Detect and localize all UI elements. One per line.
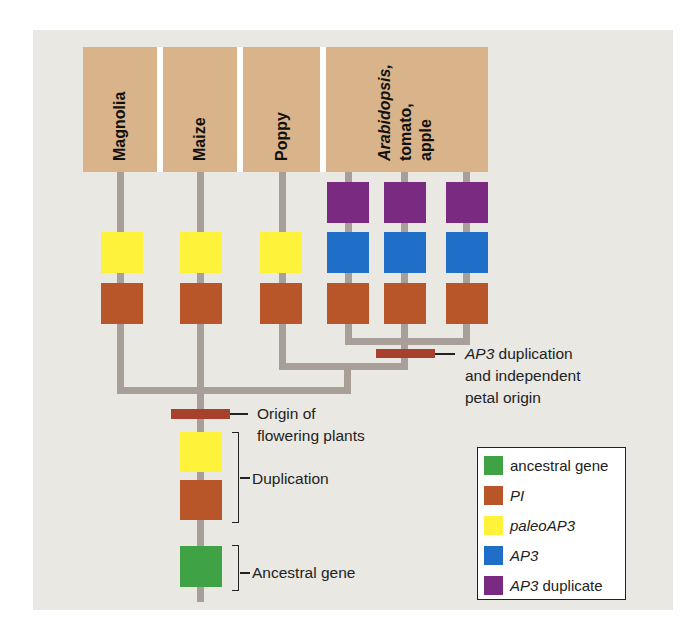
gene-box-pi bbox=[446, 283, 488, 324]
bracket-ancestral bbox=[232, 545, 239, 591]
annotation-text: petal origin bbox=[465, 387, 541, 409]
gene-box-ap3-duplicate bbox=[446, 182, 488, 223]
gene-box-pi bbox=[260, 283, 302, 324]
legend-label-italic: AP3 bbox=[510, 577, 538, 594]
annotation-text: and independent bbox=[465, 365, 581, 387]
legend: ancestral gene PI paleoAP3 AP3 AP3 dupli… bbox=[477, 447, 626, 600]
gene-box-paleoap3 bbox=[101, 232, 143, 273]
annotation-origin: flowering plants bbox=[257, 425, 365, 447]
legend-swatch-yellow bbox=[484, 516, 503, 535]
legend-item-ap3-duplicate: AP3 duplicate bbox=[484, 575, 603, 595]
gene-box-pi bbox=[180, 480, 222, 520]
gene-box-pi bbox=[180, 283, 222, 324]
legend-item-pi: PI bbox=[484, 485, 524, 505]
taxon-label-arabidopsis: Arabidopsis, bbox=[375, 64, 394, 161]
gene-box-ap3 bbox=[327, 232, 369, 273]
gene-box-pi bbox=[384, 283, 426, 324]
gene-box-ancestral bbox=[180, 546, 222, 587]
gene-box-paleoap3 bbox=[180, 232, 222, 273]
taxon-label-tomato: tomato, bbox=[396, 103, 415, 161]
annotation-ap3-gene: AP3 bbox=[465, 345, 494, 362]
gene-box-ap3-duplicate bbox=[384, 182, 426, 223]
taxon-label-apple: apple bbox=[416, 119, 435, 161]
leader-line bbox=[230, 413, 248, 415]
event-bar-flowering-origin bbox=[171, 409, 230, 419]
leader-line bbox=[240, 572, 250, 574]
leader-line bbox=[240, 477, 250, 479]
legend-item-ancestral-gene: ancestral gene bbox=[484, 455, 608, 475]
legend-swatch-green bbox=[484, 456, 503, 475]
leader-line bbox=[435, 353, 455, 355]
annotation-text: duplication bbox=[494, 345, 572, 362]
legend-item-paleoap3: paleoAP3 bbox=[484, 515, 575, 535]
legend-label: ancestral gene bbox=[510, 457, 608, 474]
gene-box-paleoap3 bbox=[180, 432, 222, 472]
taxon-label-maize: Maize bbox=[190, 117, 209, 161]
legend-label: PI bbox=[510, 487, 524, 504]
taxon-label-magnolia: Magnolia bbox=[110, 92, 129, 161]
gene-box-paleoap3 bbox=[260, 232, 302, 273]
gene-box-ap3 bbox=[446, 232, 488, 273]
event-bar-ap3-duplication bbox=[376, 349, 435, 358]
taxon-label-poppy: Poppy bbox=[272, 112, 291, 161]
legend-label: AP3 bbox=[510, 547, 538, 564]
legend-item-ap3: AP3 bbox=[484, 545, 538, 565]
annotation-ancestral: Ancestral gene bbox=[252, 562, 355, 584]
legend-label: paleoAP3 bbox=[510, 517, 575, 534]
annotation-ap3-duplication: AP3 duplication bbox=[465, 343, 573, 365]
gene-box-pi bbox=[101, 283, 143, 324]
gene-box-ap3-duplicate bbox=[327, 182, 369, 223]
legend-label: duplicate bbox=[538, 577, 602, 594]
gene-box-ap3 bbox=[384, 232, 426, 273]
legend-swatch-brown bbox=[484, 486, 503, 505]
branch-join-core-eudicots bbox=[345, 338, 470, 345]
legend-swatch-purple bbox=[484, 576, 503, 595]
bracket-duplication bbox=[232, 432, 239, 523]
legend-swatch-blue bbox=[484, 546, 503, 565]
branch-join-angiosperms bbox=[117, 387, 351, 394]
gene-box-pi bbox=[327, 283, 369, 324]
annotation-origin: Origin of bbox=[257, 403, 316, 425]
annotation-duplication: Duplication bbox=[252, 468, 329, 490]
